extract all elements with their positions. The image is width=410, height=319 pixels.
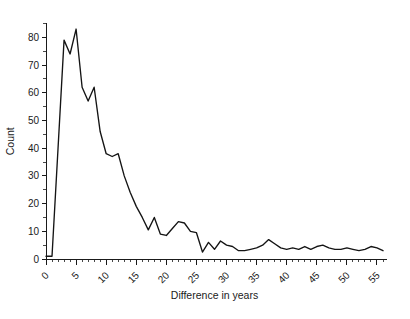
x-tick-label: 5 <box>69 269 81 281</box>
y-tick-label: 50 <box>28 115 40 126</box>
figure-container: 01020304050607080 0510152025303540455055… <box>0 0 410 319</box>
x-tick-label: 0 <box>39 269 51 281</box>
y-tick-label: 10 <box>28 226 40 237</box>
y-axis-title: Count <box>4 127 16 155</box>
x-axis-tick-labels: 0510152025303540455055 <box>39 269 382 285</box>
x-tick-label: 40 <box>276 269 292 285</box>
y-tick-label: 40 <box>28 143 40 154</box>
y-tick-label: 30 <box>28 170 40 181</box>
data-series-line <box>46 29 383 256</box>
x-tick-label: 50 <box>336 269 352 285</box>
x-tick-label: 10 <box>95 269 111 285</box>
x-tick-label: 15 <box>126 269 142 285</box>
y-tick-label: 70 <box>28 60 40 71</box>
x-tick-label: 25 <box>186 269 202 285</box>
x-tick-label: 35 <box>246 269 262 285</box>
x-tick-label: 30 <box>216 269 232 285</box>
y-tick-label: 80 <box>28 32 40 43</box>
x-tick-label: 45 <box>306 269 322 285</box>
x-axis-major-ticks <box>46 259 377 265</box>
y-tick-label: 0 <box>33 254 39 265</box>
x-tick-label: 55 <box>366 269 382 285</box>
y-tick-label: 20 <box>28 198 40 209</box>
line-chart: 01020304050607080 0510152025303540455055… <box>0 0 410 319</box>
y-axis-major-ticks <box>42 37 47 259</box>
y-axis-tick-labels: 01020304050607080 <box>28 32 40 265</box>
x-axis-title: Difference in years <box>171 289 258 301</box>
y-tick-label: 60 <box>28 87 40 98</box>
x-tick-label: 20 <box>156 269 172 285</box>
